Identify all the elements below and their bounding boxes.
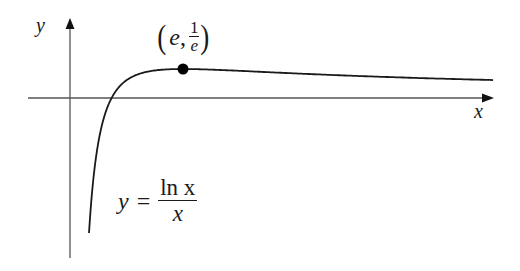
maximum-point-marker (178, 64, 189, 75)
function-equation-label: y = ln x x (118, 176, 197, 227)
point-comma: , (180, 24, 186, 51)
chart-canvas (0, 0, 520, 271)
equation-numerator: ln x (158, 176, 197, 201)
equation-lhs: y (118, 188, 129, 215)
point-y-fraction: 1 e (189, 20, 200, 54)
equation-equals: = (137, 188, 151, 215)
point-y-numerator: 1 (189, 20, 200, 37)
y-axis-label: y (36, 14, 45, 37)
point-x-label: e (169, 24, 180, 51)
equation-denominator: x (173, 201, 183, 227)
paren-open: ( (157, 20, 166, 54)
x-axis-label: x (474, 100, 483, 123)
x-axis-arrow-icon (482, 94, 494, 103)
maximum-point-label: ( e , 1 e ) (156, 20, 211, 54)
y-axis-arrow-icon (66, 18, 75, 29)
equation-fraction: ln x x (158, 176, 197, 227)
point-y-denominator: e (190, 37, 198, 54)
paren-close: ) (201, 20, 210, 54)
